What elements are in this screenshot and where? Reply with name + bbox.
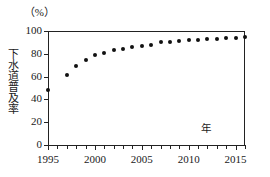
y-tick-mark <box>44 122 48 123</box>
data-point <box>102 51 106 55</box>
data-point <box>112 48 116 52</box>
x-tick-mark-minor <box>114 145 115 149</box>
x-tick-mark-major <box>48 145 49 150</box>
data-point <box>130 45 134 49</box>
data-point <box>168 40 172 44</box>
data-point <box>187 38 191 42</box>
chart-screenshot: （%） 下水道普及率 020406080100 1995200020052010… <box>0 0 270 177</box>
data-point <box>177 39 181 43</box>
x-axis-unit-label: 年 <box>201 122 211 135</box>
data-point <box>224 36 228 40</box>
x-tick-mark-minor <box>170 145 171 149</box>
y-tick-label: 100 <box>20 24 42 37</box>
data-point <box>121 47 125 51</box>
x-tick-mark-major <box>95 145 96 150</box>
data-point <box>149 43 153 47</box>
plot-frame-top <box>48 31 245 32</box>
x-tick-mark-minor <box>67 145 68 149</box>
x-tick-mark-minor <box>207 145 208 149</box>
y-tick-label: 20 <box>20 115 42 128</box>
data-point <box>93 53 97 57</box>
plot-area: 020406080100 19952000200520102015 <box>48 31 245 145</box>
x-tick-mark-minor <box>161 145 162 149</box>
x-tick-label: 2015 <box>225 153 247 166</box>
x-tick-label: 2000 <box>84 153 106 166</box>
x-tick-mark-minor <box>226 145 227 149</box>
x-tick-mark-minor <box>123 145 124 149</box>
y-tick-label: 0 <box>20 138 42 151</box>
y-axis-title: 下水道普及率 <box>2 42 18 120</box>
y-tick-label: 80 <box>20 47 42 60</box>
x-tick-mark-minor <box>86 145 87 149</box>
x-tick-mark-minor <box>179 145 180 149</box>
x-tick-label: 2005 <box>131 153 153 166</box>
x-tick-mark-minor <box>57 145 58 149</box>
y-tick-mark <box>44 54 48 55</box>
x-axis-ticks: 19952000200520102015 <box>48 145 245 175</box>
data-point <box>140 44 144 48</box>
x-tick-mark-minor <box>76 145 77 149</box>
y-tick-mark <box>44 99 48 100</box>
x-tick-mark-minor <box>132 145 133 149</box>
y-tick-label: 40 <box>20 92 42 105</box>
x-tick-mark-major <box>236 145 237 150</box>
data-point <box>159 40 163 44</box>
data-point <box>46 88 50 92</box>
data-point <box>84 58 88 62</box>
data-point <box>196 38 200 42</box>
x-tick-label: 1995 <box>37 153 59 166</box>
data-point <box>65 73 69 77</box>
y-tick-mark <box>44 77 48 78</box>
x-tick-mark-minor <box>245 145 246 149</box>
x-tick-mark-minor <box>104 145 105 149</box>
x-tick-mark-major <box>142 145 143 150</box>
y-tick-label: 60 <box>20 70 42 83</box>
x-tick-mark-major <box>189 145 190 150</box>
data-point <box>243 35 247 39</box>
x-tick-label: 2010 <box>178 153 200 166</box>
x-tick-mark-minor <box>198 145 199 149</box>
data-point <box>234 36 238 40</box>
x-tick-mark-minor <box>217 145 218 149</box>
y-tick-mark <box>44 31 48 32</box>
x-tick-mark-minor <box>151 145 152 149</box>
data-point <box>215 37 219 41</box>
y-axis-unit-label: （%） <box>24 6 54 18</box>
data-point <box>74 64 78 68</box>
plot-frame-right <box>244 31 245 146</box>
data-point <box>205 37 209 41</box>
